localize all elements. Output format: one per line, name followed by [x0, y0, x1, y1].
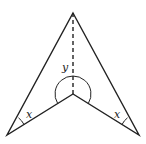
- label-x-left: x: [26, 108, 33, 121]
- arrowhead-diagram: y x x: [0, 0, 146, 144]
- reflex-angle-arc: [55, 76, 91, 103]
- right-angle-arc: [122, 118, 128, 125]
- label-y: y: [61, 61, 69, 74]
- label-x-right: x: [114, 108, 121, 121]
- left-angle-arc: [19, 118, 25, 125]
